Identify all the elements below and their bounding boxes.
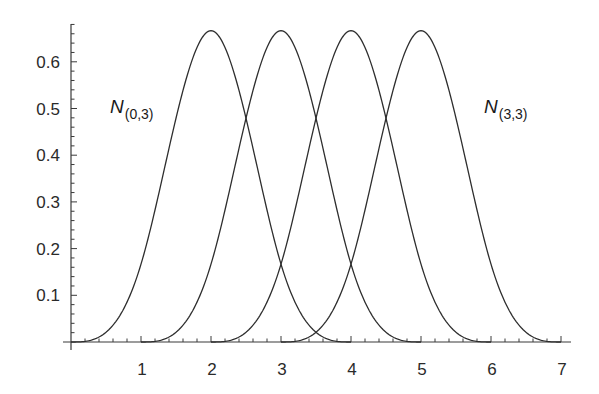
x-tick-label: 4 xyxy=(347,360,356,379)
y-tick-label: 0.5 xyxy=(36,100,60,119)
label-n-3-3-main: N xyxy=(484,96,498,117)
curve-n-3-3 xyxy=(281,31,561,342)
label-n-0-3: N(0,3) xyxy=(110,96,154,122)
label-n-3-3: N(3,3) xyxy=(484,96,528,122)
curve-n-1-3 xyxy=(141,31,421,342)
y-axis-ticks xyxy=(71,24,77,332)
y-axis-tick-labels: 0.10.20.30.40.50.6 xyxy=(36,53,60,305)
x-tick-label: 2 xyxy=(207,360,216,379)
y-tick-label: 0.3 xyxy=(36,193,60,212)
curve-n-0-3 xyxy=(71,31,351,342)
label-n-3-3-subscript: (3,3) xyxy=(499,106,528,122)
curve-n-2-3 xyxy=(211,31,491,342)
basis-curves xyxy=(71,31,561,342)
x-axis-tick-labels: 1234567 xyxy=(137,360,566,379)
label-n-0-3-subscript: (0,3) xyxy=(125,106,154,122)
x-tick-label: 6 xyxy=(487,360,496,379)
y-tick-label: 0.6 xyxy=(36,53,60,72)
y-tick-label: 0.4 xyxy=(36,146,60,165)
x-tick-label: 3 xyxy=(277,360,286,379)
y-tick-label: 0.1 xyxy=(36,286,60,305)
bspline-basis-chart: 0.10.20.30.40.50.6 1234567 N(0,3) N(3,3) xyxy=(0,0,599,394)
label-n-0-3-main: N xyxy=(110,96,124,117)
x-tick-label: 7 xyxy=(557,360,566,379)
x-tick-label: 1 xyxy=(137,360,146,379)
x-tick-label: 5 xyxy=(417,360,426,379)
y-tick-label: 0.2 xyxy=(36,240,60,259)
